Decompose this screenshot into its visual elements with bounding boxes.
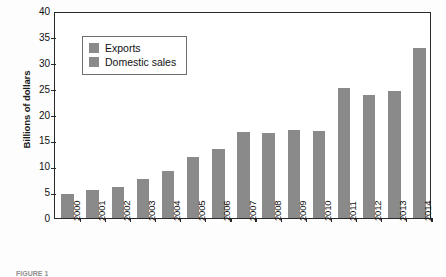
- y-tick-mark: [51, 142, 56, 143]
- legend-swatch-icon: [89, 43, 99, 53]
- x-tick-label: 2010: [322, 201, 333, 221]
- bar: [363, 95, 376, 218]
- y-tick-label: 5: [24, 188, 50, 198]
- y-tick-label: 0: [24, 214, 50, 224]
- x-tick-label: 2000: [71, 201, 82, 221]
- chart-legend: ExportsDomestic sales: [82, 36, 187, 75]
- legend-item: Domestic sales: [89, 55, 176, 69]
- x-tick-label: 2008: [272, 201, 283, 221]
- y-tick-mark: [51, 90, 56, 91]
- y-tick-label: 30: [24, 59, 50, 69]
- x-tick-label: 2003: [146, 201, 157, 221]
- legend-item: Exports: [89, 41, 176, 55]
- x-tick-label: 2011: [347, 201, 358, 221]
- x-axis-tick-labels: 2000200120022003200420052006200720082009…: [54, 221, 431, 261]
- x-tick-label: 2014: [422, 201, 433, 221]
- legend-label: Exports: [105, 42, 141, 54]
- y-tick-label: 20: [24, 111, 50, 121]
- x-tick-label: 2002: [121, 201, 132, 221]
- y-tick-label: 40: [24, 7, 50, 17]
- legend-label: Domestic sales: [105, 56, 176, 68]
- x-tick-label: 2012: [372, 201, 383, 221]
- x-tick-label: 2004: [171, 201, 182, 221]
- y-tick-mark: [51, 194, 56, 195]
- y-tick-mark: [51, 168, 56, 169]
- y-tick-mark: [51, 116, 56, 117]
- y-tick-label: 25: [24, 85, 50, 95]
- y-tick-label: 35: [24, 33, 50, 43]
- x-tick-label: 2013: [397, 201, 408, 221]
- y-tick-mark: [51, 38, 56, 39]
- bar: [413, 48, 426, 218]
- y-tick-mark: [51, 64, 56, 65]
- legend-swatch-icon: [89, 57, 99, 67]
- y-axis-tick-labels: 0510152025303540: [24, 12, 50, 219]
- bar: [388, 91, 401, 218]
- figure-container: Billions of dollars 0510152025303540 200…: [0, 0, 446, 277]
- x-tick-label: 2006: [221, 201, 232, 221]
- figure-caption: FIGURE 1: [16, 270, 48, 277]
- x-tick-label: 2007: [247, 201, 258, 221]
- x-tick-label: 2009: [297, 201, 308, 221]
- x-tick-label: 2005: [196, 201, 207, 221]
- y-tick-label: 10: [24, 162, 50, 172]
- y-tick-label: 15: [24, 136, 50, 146]
- x-tick-label: 2001: [96, 201, 107, 221]
- bar: [338, 88, 351, 218]
